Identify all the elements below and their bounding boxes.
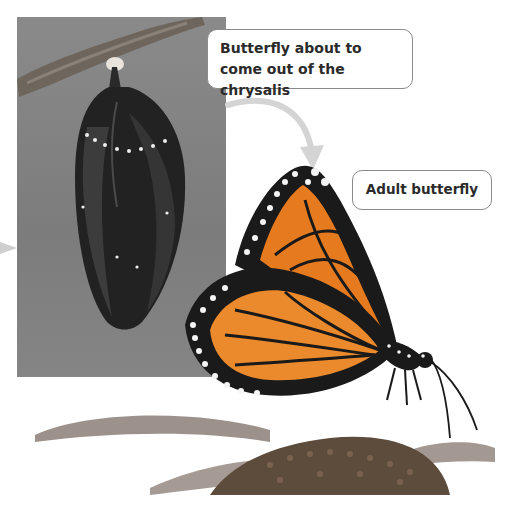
adult-butterfly-callout: Adult butterfly xyxy=(352,170,492,210)
previous-stage-arrow-icon xyxy=(0,238,17,258)
chrysalis-callout: Butterfly about to come out of the chrys… xyxy=(207,29,413,89)
